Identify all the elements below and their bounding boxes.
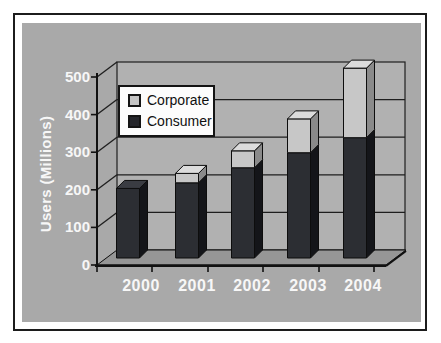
bar-2001-consumer (176, 183, 199, 258)
y-tick-connector (97, 62, 117, 77)
legend-item-consumer: Consumer (128, 114, 213, 129)
bar-2000-consumer-side (140, 180, 148, 258)
bar-2003-corporate (288, 119, 311, 153)
bar-2004-consumer-side (367, 130, 375, 258)
bar-2004-corporate-side (367, 60, 375, 138)
y-tick-label: 300 (44, 143, 90, 161)
bar-2001-corporate (176, 173, 199, 182)
y-tick-label: 0 (44, 256, 90, 274)
x-tick-label: 2000 (109, 277, 173, 295)
y-tick-label: 100 (44, 218, 90, 236)
x-tick-label: 2004 (331, 277, 395, 295)
bar-2003-consumer-side (311, 145, 319, 258)
consumer-swatch-icon (128, 115, 141, 128)
bar-2003-consumer (288, 153, 311, 258)
figure: Users (Millions) 500 400 300 200 100 0 2… (0, 0, 441, 343)
y-tick-label: 500 (44, 68, 90, 86)
legend-label: Corporate (147, 93, 209, 108)
y-tick-label: 200 (44, 181, 90, 199)
bar-2004-consumer (344, 138, 367, 258)
corporate-swatch-icon (128, 94, 141, 107)
bar-2001-consumer-side (199, 175, 207, 258)
bar-2002-consumer (232, 168, 255, 258)
bar-2000-consumer (117, 188, 140, 258)
legend-item-corporate: Corporate (128, 93, 213, 108)
legend: Corporate Consumer (118, 85, 215, 137)
bar-2004-corporate (344, 68, 367, 138)
x-tick-label: 2002 (220, 277, 284, 295)
y-tick-label: 400 (44, 106, 90, 124)
legend-label: Consumer (147, 114, 212, 129)
y-tick-connector (97, 137, 117, 152)
y-tick-connector (97, 212, 117, 227)
bar-2002-consumer-side (255, 160, 263, 258)
y-tick-connector (97, 100, 117, 115)
bar-2002-corporate (232, 151, 255, 168)
y-tick-connector (97, 175, 117, 190)
